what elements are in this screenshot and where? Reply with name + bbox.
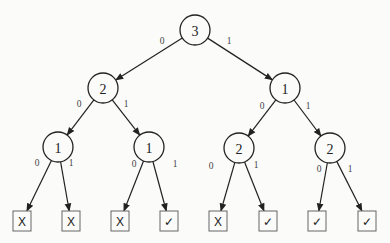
tree-edge: 1 [153,159,178,211]
tree-edge: 0 [67,99,94,135]
tree-edge: 0 [116,36,183,80]
x-mark-icon: X [116,215,124,229]
node-label: 1 [146,141,153,156]
leaf-reject: X [13,211,31,231]
edge-label: 0 [132,159,137,169]
leaf-reject: X [62,211,80,231]
node-label: 3 [192,24,199,39]
leaf-accept: ✓ [308,211,326,231]
decision-tree-diagram: 01010101010101 3211122 XXX✓X✓✓✓ [0,0,390,243]
tree-node: 2 [88,73,118,103]
arrow-icon [208,38,273,80]
edge-label: 1 [348,164,353,174]
arrow-icon [61,162,70,211]
arrow-icon [153,161,166,211]
checkmark-icon: ✓ [164,215,174,229]
edge-label: 0 [35,158,40,168]
tree-edge: 0 [209,161,235,211]
edge-label: 1 [69,158,74,168]
tree-edge: 1 [61,158,74,211]
tree-edge: 1 [245,160,264,211]
x-mark-icon: X [214,215,222,229]
checkmark-icon: ✓ [263,215,273,229]
tree-node: 2 [224,133,254,163]
checkmark-icon: ✓ [362,215,372,229]
edge-label: 0 [160,36,165,46]
tree-node: 3 [180,15,210,45]
leaf-accept: ✓ [358,211,376,231]
tree-edge: 1 [112,99,140,135]
arrow-icon [27,160,52,211]
tree-edge: 1 [294,100,321,136]
checkmark-icon: ✓ [312,215,322,229]
tree-node: 1 [134,132,164,162]
arrow-icon [116,38,183,80]
leaf-reject: X [209,211,227,231]
tree-node: 1 [270,73,300,103]
leaves-layer: XXX✓X✓✓✓ [13,211,376,231]
nodes-layer: 3211122 [43,15,345,163]
edge-label: 0 [209,161,214,171]
leaf-reject: X [111,211,129,231]
tree-edge: 0 [248,100,276,136]
leaf-accept: ✓ [160,211,178,231]
edges-layer: 01010101010101 [27,36,362,211]
leaf-accept: ✓ [259,211,277,231]
node-label: 2 [327,142,334,157]
node-label: 2 [100,82,107,97]
edge-label: 0 [260,101,265,111]
node-label: 2 [236,142,243,157]
tree-node: 1 [43,132,73,162]
edge-label: 1 [173,159,178,169]
tree-node: 2 [315,133,345,163]
edge-label: 0 [317,164,322,174]
node-label: 1 [55,141,62,156]
tree-edge: 0 [124,159,144,211]
arrow-icon [221,162,235,211]
x-mark-icon: X [67,215,75,229]
tree-edge: 1 [337,161,362,211]
edge-label: 1 [306,101,311,111]
edge-label: 1 [124,99,129,109]
tree-edge: 0 [27,158,52,211]
node-label: 1 [282,82,289,97]
x-mark-icon: X [18,215,26,229]
tree-edge: 0 [317,163,328,211]
tree-edge: 1 [208,36,273,80]
edge-label: 1 [227,36,232,46]
edge-label: 0 [77,99,82,109]
edge-label: 1 [254,160,259,170]
